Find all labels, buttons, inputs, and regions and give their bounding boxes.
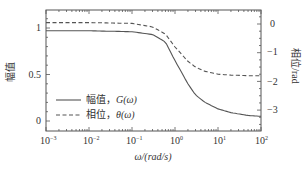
x-tick-labels: 10−3 10−2 10−1 100 101 102 xyxy=(40,135,268,146)
x-axis-title: ω/(rad/s) xyxy=(134,151,172,163)
svg-text:10−2: 10−2 xyxy=(83,135,99,146)
right-tick-minus1: −1 xyxy=(267,46,278,57)
left-tick-1: 1 xyxy=(36,22,41,33)
left-tick-0.5: 0.5 xyxy=(29,69,42,80)
plot-frame xyxy=(46,10,261,131)
left-ticks xyxy=(46,19,50,121)
right-tick-minus3: −3 xyxy=(267,104,278,115)
magnitude-curve xyxy=(46,31,261,117)
svg-text:102: 102 xyxy=(255,135,268,146)
right-tick-minus2: −2 xyxy=(267,76,278,87)
right-ticks xyxy=(257,17,261,125)
svg-text:100: 100 xyxy=(170,135,183,146)
y-left-axis-title: 幅值 xyxy=(4,62,16,82)
legend: 幅值，G(ω) 相位，θ(ω) xyxy=(56,93,138,121)
y-right-axis-title: 相位/rad xyxy=(290,48,302,84)
legend-phase: 相位，θ(ω) xyxy=(86,108,135,121)
legend-magnitude: 幅值，G(ω) xyxy=(86,93,138,106)
svg-text:10−1: 10−1 xyxy=(126,135,142,146)
left-tick-0: 0 xyxy=(36,115,41,126)
svg-text:10−3: 10−3 xyxy=(40,135,56,146)
chart: 1 0.5 0 0 −1 −2 −3 10−3 10−2 10−1 100 10… xyxy=(0,0,306,172)
x-ticks xyxy=(46,10,261,131)
right-tick-0: 0 xyxy=(270,18,275,29)
svg-text:101: 101 xyxy=(213,135,226,146)
